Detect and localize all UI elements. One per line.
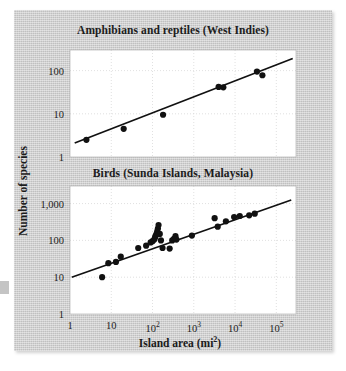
data-point [113,259,119,265]
data-point [121,126,127,132]
data-point [237,213,243,219]
data-point [135,245,141,251]
data-point [105,260,111,266]
data-point [259,72,265,78]
x-tick-label: 1 [67,320,72,331]
y-tick-label: 100 [22,65,64,76]
y-tick-label: 100 [22,235,64,246]
y-tick-label: 1 [22,309,64,320]
plot-area-background [70,50,296,157]
data-point [215,224,221,230]
figure-container: Amphibians and reptiles (West Indies) Bi… [0,0,346,371]
data-point [254,68,260,74]
data-point [223,218,229,224]
y-tick-label: 1,000 [22,198,64,209]
data-point [167,245,173,251]
data-point [159,245,165,251]
data-point [173,236,179,242]
plot-panel-2 [70,186,296,314]
data-point [155,222,161,228]
x-tick-label: 105 [269,320,283,334]
data-point [83,137,89,143]
data-point [118,254,124,260]
data-point [212,215,218,221]
y-tick-label: 1 [22,152,64,163]
x-tick-label: 104 [228,320,242,334]
x-tick-label: 103 [187,320,201,334]
plot-panel-1 [70,50,296,157]
data-point [189,232,195,238]
data-point [231,214,237,220]
x-tick-label: 102 [145,320,159,334]
data-point [246,212,252,218]
data-point [252,211,258,217]
y-tick-label: 10 [22,108,64,119]
data-point [99,274,105,280]
x-tick-label: 10 [106,320,117,331]
data-point [158,237,164,243]
data-point [160,112,166,118]
data-point [220,84,226,90]
plot-area-background [70,186,296,314]
y-tick-label: 10 [22,272,64,283]
data-point [157,231,163,237]
